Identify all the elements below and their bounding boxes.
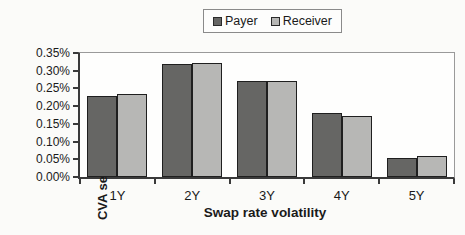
y-axis-tick xyxy=(73,141,78,143)
cva-sensitivity-bar-chart: Payer Receiver CVA sensitivity 0.00%0.05… xyxy=(0,0,465,235)
bar-payer-5y xyxy=(387,158,417,177)
x-category-label: 1Y xyxy=(109,188,125,203)
x-axis-title: Swap rate volatility xyxy=(78,205,452,220)
x-category-label: 2Y xyxy=(184,188,200,203)
y-tick-label: 0.30% xyxy=(24,64,70,78)
legend-entry-receiver: Receiver xyxy=(271,15,332,28)
y-axis-tick xyxy=(73,87,78,89)
legend-label-payer: Payer xyxy=(225,15,258,28)
y-tick-label: 0.25% xyxy=(24,81,70,95)
y-axis-tick xyxy=(73,123,78,125)
y-tick-label: 0.00% xyxy=(24,170,70,184)
y-tick-label: 0.35% xyxy=(24,46,70,60)
bar-payer-2y xyxy=(162,64,192,177)
y-axis-tick xyxy=(73,176,78,178)
bar-receiver-1y xyxy=(117,94,147,177)
x-axis-tick xyxy=(229,179,231,184)
bar-payer-1y xyxy=(87,96,117,177)
bar-payer-3y xyxy=(237,81,267,177)
x-category-label: 5Y xyxy=(409,188,425,203)
x-category-label: 3Y xyxy=(259,188,275,203)
y-axis-tick xyxy=(73,105,78,107)
y-tick-label: 0.20% xyxy=(24,99,70,113)
plot-area: CVA sensitivity 0.00%0.05%0.10%0.15%0.20… xyxy=(78,52,455,179)
y-tick-label: 0.15% xyxy=(24,117,70,131)
y-axis-tick xyxy=(73,70,78,72)
legend-entry-payer: Payer xyxy=(213,15,258,28)
y-axis-tick xyxy=(73,158,78,160)
y-tick-label: 0.10% xyxy=(24,135,70,149)
x-category-label: 4Y xyxy=(334,188,350,203)
x-axis-tick xyxy=(303,179,305,184)
legend-label-receiver: Receiver xyxy=(283,15,332,28)
bar-receiver-5y xyxy=(417,156,447,177)
bar-receiver-4y xyxy=(342,116,372,177)
bar-receiver-2y xyxy=(192,63,222,177)
x-axis-tick xyxy=(453,179,455,184)
legend-swatch-payer xyxy=(213,17,222,26)
chart-legend: Payer Receiver xyxy=(203,9,342,33)
bar-payer-4y xyxy=(312,113,342,177)
x-axis-tick xyxy=(378,179,380,184)
legend-swatch-receiver xyxy=(271,17,280,26)
x-axis-tick xyxy=(79,179,81,184)
y-tick-label: 0.05% xyxy=(24,152,70,166)
bar-receiver-3y xyxy=(267,81,297,177)
y-axis-tick xyxy=(73,52,78,54)
x-axis-tick xyxy=(154,179,156,184)
